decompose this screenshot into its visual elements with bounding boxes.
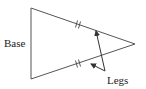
isosceles-triangle-diagram: Base Legs: [0, 0, 146, 89]
legs-label: Legs: [107, 74, 128, 86]
arrow-to-upper-leg: [96, 31, 105, 71]
upper-leg: [31, 8, 135, 44]
arrow-to-lower-leg: [91, 64, 105, 71]
base-label: Base: [4, 37, 26, 49]
